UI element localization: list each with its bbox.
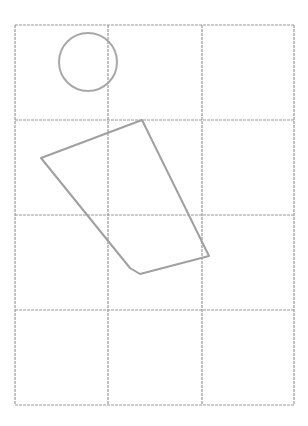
- quadrilateral-shape: [41, 120, 209, 274]
- grid: [15, 25, 294, 405]
- sketch-canvas: [0, 0, 308, 426]
